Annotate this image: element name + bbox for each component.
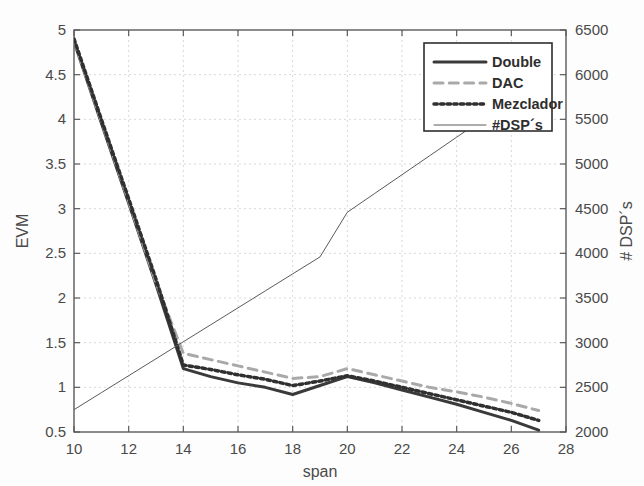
y-tick-label: 4 <box>58 110 66 127</box>
y2-tick-labels: 2000250030003500400045005000550060006500 <box>575 21 608 440</box>
x-tick-label: 12 <box>120 440 137 457</box>
y2-tick-label: 3000 <box>575 334 608 351</box>
x-tick-label: 28 <box>558 440 575 457</box>
y2-tick-label: 6000 <box>575 66 608 83</box>
y2-tick-label: 2500 <box>575 378 608 395</box>
legend-label-0: Double <box>492 54 541 70</box>
legend-label-3: #DSP´s <box>492 117 543 133</box>
y-tick-label: 2.5 <box>45 244 66 261</box>
y2-tick-label: 6500 <box>575 21 608 38</box>
y-tick-label: 3.5 <box>45 155 66 172</box>
chart-canvas: 10121416182022242628 0.511.522.533.544.5… <box>0 0 644 486</box>
x-tick-labels: 10121416182022242628 <box>66 440 575 457</box>
y-tick-label: 5 <box>58 21 66 38</box>
y2-tick-label: 4500 <box>575 200 608 217</box>
y2-tick-label: 3500 <box>575 289 608 306</box>
y2-axis-title: # DSP´s <box>618 201 635 261</box>
y-tick-label: 0.5 <box>45 423 66 440</box>
y-tick-label: 4.5 <box>45 66 66 83</box>
x-tick-label: 14 <box>175 440 192 457</box>
x-tick-label: 24 <box>448 440 465 457</box>
x-tick-label: 26 <box>503 440 520 457</box>
chart-figure: 10121416182022242628 0.511.522.533.544.5… <box>0 0 644 486</box>
x-tick-label: 16 <box>230 440 247 457</box>
legend-label-1: DAC <box>492 75 524 91</box>
x-tick-label: 10 <box>66 440 83 457</box>
y-tick-label: 3 <box>58 200 66 217</box>
x-tick-label: 20 <box>339 440 356 457</box>
y2-tick-label: 2000 <box>575 423 608 440</box>
y-tick-label: 2 <box>58 289 66 306</box>
y2-tick-label: 5500 <box>575 110 608 127</box>
y2-tick-label: 4000 <box>575 244 608 261</box>
y2-tick-label: 5000 <box>575 155 608 172</box>
y-axis-title: EVM <box>14 214 31 249</box>
y-tick-label: 1.5 <box>45 334 66 351</box>
chart-legend[interactable]: DoubleDACMezclador#DSP´s <box>424 43 563 133</box>
x-tick-label: 18 <box>284 440 301 457</box>
x-axis-title: span <box>303 463 338 480</box>
x-tick-label: 22 <box>394 440 411 457</box>
legend-label-2: Mezclador <box>492 96 563 112</box>
y-tick-label: 1 <box>58 378 66 395</box>
y-tick-labels: 0.511.522.533.544.55 <box>45 21 66 440</box>
